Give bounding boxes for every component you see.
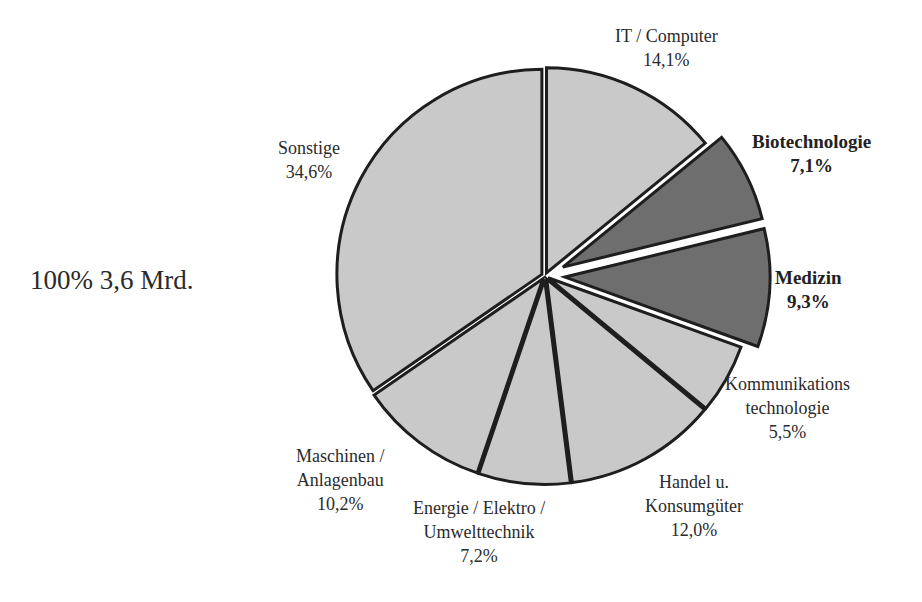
- label-maschinen-anlagenbau: Maschinen / Anlagenbau 10,2%: [296, 444, 384, 516]
- total-label: 100% 3,6 Mrd.: [30, 265, 194, 296]
- label-handel-konsumgueter: Handel u. Konsumgüter 12,0%: [645, 470, 743, 542]
- label-sonstige: Sonstige 34,6%: [278, 136, 340, 184]
- label-it-computer: IT / Computer 14,1%: [615, 24, 718, 72]
- label-energie-elektro-umwelttechnik: Energie / Elektro / Umwelttechnik 7,2%: [413, 496, 545, 568]
- label-biotechnologie: Biotechnologie 7,1%: [752, 130, 871, 178]
- label-medizin: Medizin 9,3%: [775, 266, 842, 314]
- label-kommunikationstechnologie: Kommunikations technologie 5,5%: [725, 372, 850, 444]
